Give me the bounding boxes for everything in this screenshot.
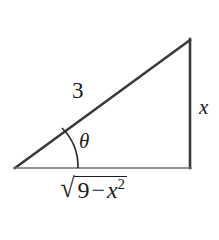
opposite-side-label: x (199, 97, 208, 118)
angle-arc (62, 128, 78, 168)
hypotenuse-label: 3 (72, 79, 84, 102)
theta-angle-label: θ (79, 131, 89, 152)
radicand-group: 9−x2 (74, 176, 127, 203)
adjacent-side-label: √ 9−x2 (60, 176, 127, 203)
radicand-exponent: 2 (118, 176, 126, 192)
hypotenuse-line (15, 40, 190, 168)
radicand-number: 9 (77, 177, 89, 203)
radical-sign-icon: √ (61, 176, 75, 201)
radicand-variable: x (107, 177, 118, 203)
minus-sign: − (89, 177, 107, 203)
